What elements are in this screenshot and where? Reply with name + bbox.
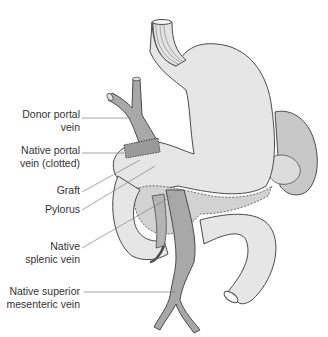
donor-portal-vein-graph	[106, 77, 160, 158]
label-donor-portal-vein: Donor portal vein	[22, 108, 80, 133]
duodenum-loop	[200, 214, 276, 305]
label-native-portal-vein: Native portal vein (clotted)	[20, 144, 80, 169]
label-graft: Graft	[57, 184, 80, 197]
label-native-splenic-vein: Native splenic vein	[25, 240, 80, 265]
label-pylorus: Pylorus	[45, 203, 80, 216]
label-native-superior-mesenteric-vein: Native superior mesenteric vein	[6, 285, 80, 310]
